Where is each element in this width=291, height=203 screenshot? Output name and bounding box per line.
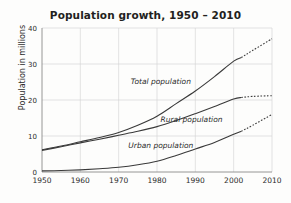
y-tick-label: 40 bbox=[28, 25, 37, 33]
series-label: Total population bbox=[131, 77, 191, 86]
series-label: Urban population bbox=[128, 141, 193, 150]
series-label: Rural population bbox=[160, 115, 222, 124]
series-line-projection bbox=[241, 39, 272, 58]
x-tick-label: 2010 bbox=[262, 176, 281, 185]
x-tick-labels: 1950196019701980199020002010 bbox=[32, 176, 281, 185]
x-tick-label: 1980 bbox=[147, 176, 166, 185]
x-tick-label: 2000 bbox=[224, 176, 243, 185]
x-tick-label: 1970 bbox=[109, 176, 128, 185]
y-tick-label: 10 bbox=[28, 133, 37, 141]
x-tick-label: 1960 bbox=[71, 176, 90, 185]
series-line-projection bbox=[241, 114, 272, 131]
series-line-projection bbox=[241, 96, 272, 98]
series-line-solid bbox=[42, 131, 241, 171]
y-tick-label: 20 bbox=[28, 97, 37, 105]
chart-plot-area: 010203040 1950196019701980199020002010 T… bbox=[0, 0, 291, 203]
x-tick-label: 1950 bbox=[32, 176, 51, 185]
series-inline-labels: Total populationRural populationUrban po… bbox=[128, 77, 222, 150]
y-tick-label: 30 bbox=[28, 61, 37, 69]
y-tick-labels: 010203040 bbox=[28, 25, 37, 177]
x-tick-label: 1990 bbox=[186, 176, 205, 185]
chart-page: Population growth, 1950 – 2010 Populatio… bbox=[0, 0, 291, 203]
